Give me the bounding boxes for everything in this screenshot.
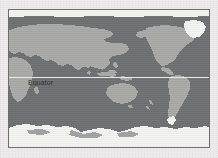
ice-arctic	[9, 10, 209, 17]
screenshot-root: Equator	[0, 0, 218, 158]
world-map-frame: Equator	[8, 9, 210, 148]
equator-label: Equator	[28, 79, 53, 87]
equator-line	[9, 77, 209, 78]
